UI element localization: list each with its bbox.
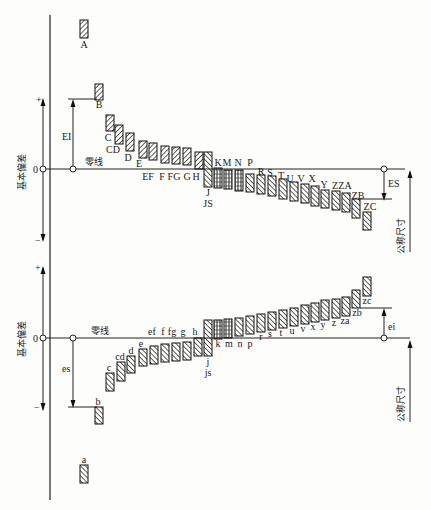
ei-arrow-icon: [71, 99, 76, 107]
bar-label: U: [286, 173, 294, 184]
bar-label: d: [129, 345, 134, 356]
axis-title-fundamental-deviation: 基本偏差: [16, 321, 27, 357]
axis-title-fundamental-deviation: 基本偏差: [16, 154, 27, 190]
bar-label: g: [181, 326, 186, 337]
deviation-bar-U: [290, 182, 298, 201]
bar-label: e: [139, 338, 144, 349]
bar-label: J: [206, 187, 210, 198]
deviation-bar-S: [268, 176, 276, 196]
bar-label: y: [321, 319, 326, 330]
deviation-bar-D: [126, 133, 134, 151]
deviation-bar-za: [342, 297, 350, 316]
deviation-bar-V: [301, 184, 309, 203]
ei-arrow-icon: [382, 308, 387, 316]
deviation-bar-Z: [332, 191, 340, 210]
deviation-bar-fg: [172, 343, 180, 361]
nominal-arrow-icon: [408, 170, 413, 178]
bar-label: u: [290, 325, 295, 336]
bar-label: C: [105, 132, 112, 143]
deviation-bar-CD: [115, 125, 123, 144]
up-arrow-icon: [41, 266, 46, 274]
bar-label: js: [204, 367, 212, 378]
lower-bars: abccddeefffgghjjskmnprstuvxyzzazbzc: [80, 277, 372, 483]
deviation-bar-N: [235, 170, 243, 191]
bar-label: a: [82, 454, 87, 465]
bar-label: FG: [168, 171, 181, 182]
down-arrow-icon: [41, 234, 46, 242]
nominal-size-label: 公称尺寸: [395, 386, 406, 422]
fundamental-deviation-diagram: + − 0 基本偏差 零线 EI ABCCDDEEFFFGGHJJSKMNPRS…: [0, 0, 431, 510]
deviation-bar-C: [106, 115, 114, 131]
bar-label: p: [248, 338, 253, 349]
bar-label: h: [193, 326, 198, 337]
ei-origin-circle: [70, 166, 76, 172]
deviation-bar-B: [95, 84, 103, 100]
deviation-bar-ef: [150, 346, 158, 364]
bar-label: P: [247, 157, 253, 168]
bar-label: Y: [320, 179, 327, 190]
zero-line-label: 零线: [85, 156, 103, 167]
bar-label: za: [341, 315, 350, 326]
deviation-bar-g: [183, 342, 191, 360]
bar-label: ef: [148, 326, 156, 337]
bar-label: s: [268, 328, 272, 339]
deviation-bar-K: [214, 168, 222, 188]
deviation-bar-n: [235, 318, 243, 336]
es-circle: [381, 166, 387, 172]
bar-label: zc: [363, 295, 372, 306]
deviation-bar-x: [311, 303, 319, 322]
bar-label: x: [311, 321, 316, 332]
bar-label: c: [107, 362, 112, 373]
deviation-bar-ZA: [342, 193, 350, 212]
zero-line-label: 零线: [91, 325, 109, 336]
origin-circle: [40, 335, 46, 341]
bar-label: EF: [142, 171, 154, 182]
deviation-bar-J: [204, 152, 212, 187]
deviation-bar-d: [127, 356, 135, 373]
deviation-bar-cd: [117, 362, 125, 381]
diagram-svg: + − 0 基本偏差 零线 EI ABCCDDEEFFFGGHJJSKMNPRS…: [0, 0, 431, 510]
bar-label: j: [206, 356, 210, 367]
deviation-bar-b: [95, 407, 103, 424]
bar-label: D: [124, 152, 131, 163]
deviation-bar-h: [194, 338, 202, 356]
bar-label: r: [259, 331, 263, 342]
deviation-bar-e: [139, 349, 147, 366]
bar-label: V: [297, 173, 305, 184]
bar-label: N: [234, 157, 241, 168]
bar-label: z: [332, 317, 337, 328]
deviation-bar-ZB: [352, 199, 360, 218]
deviation-bar-F: [161, 146, 169, 163]
ei-circle: [381, 335, 387, 341]
deviation-bar-A: [80, 20, 88, 38]
deviation-bar-k: [214, 320, 222, 339]
zero-label: 0: [33, 164, 38, 175]
deviation-bar-ZC: [363, 212, 371, 230]
bar-label: G: [183, 171, 190, 182]
bar-label: A: [80, 39, 88, 50]
bar-label: M: [223, 157, 232, 168]
plus-sign: +: [35, 262, 41, 273]
bar-label: fg: [168, 326, 176, 337]
deviation-bar-a: [80, 465, 88, 483]
deviation-bar-z: [332, 299, 340, 318]
ei-label: ei: [388, 321, 395, 332]
deviation-bar-E: [139, 141, 147, 158]
es-label: es: [62, 363, 70, 374]
deviation-bar-r: [257, 314, 265, 332]
lower-shaft-diagram: + − 0 基本偏差 零线 es abccddeefffgghjjskmnprs…: [16, 262, 413, 483]
deviation-bar-t: [279, 310, 287, 328]
deviation-bar-y: [321, 300, 329, 320]
bar-label: B: [96, 99, 103, 110]
bar-label: K: [214, 157, 222, 168]
deviation-bar-H: [195, 152, 203, 169]
bar-label: n: [238, 338, 243, 349]
bar-label: cd: [115, 351, 124, 362]
es-origin-circle: [70, 335, 76, 341]
bar-label: H: [192, 171, 199, 182]
bar-label: CD: [106, 144, 120, 155]
ei-label: EI: [62, 131, 71, 142]
deviation-bar-EF: [149, 143, 157, 160]
deviation-bar-R: [257, 175, 265, 194]
deviation-bar-f: [161, 344, 169, 362]
